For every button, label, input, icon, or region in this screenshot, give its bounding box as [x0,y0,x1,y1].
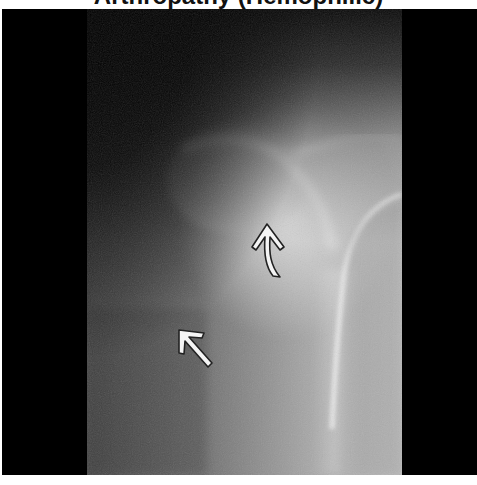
radiograph-image [87,9,402,475]
radiograph-render [87,9,402,475]
figure-title: Arthropathy (Hemophilic) [0,0,477,8]
